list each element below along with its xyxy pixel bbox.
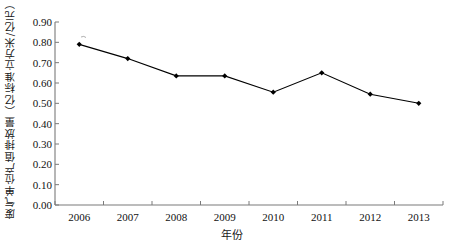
x-axis-title: 年份 [0,226,452,242]
data-point-marker [174,73,179,78]
x-axis-title-text: 年份 [209,226,244,242]
data-point-marker [416,101,421,106]
axis-lines [55,22,443,205]
axis-tick-marks [55,22,443,205]
scan-artifact [81,36,86,37]
data-point-markers [77,42,422,106]
chart-figure: 废气单位产值排放量（亿标准立方米/亿元） 0.000.100.200.300.4… [0,0,452,246]
data-point-marker [368,92,373,97]
data-point-marker [222,73,227,78]
data-point-marker [125,56,130,61]
data-point-marker [271,90,276,95]
plot-area [0,0,452,246]
data-line [79,44,419,103]
data-point-marker [319,70,324,75]
data-point-marker [77,42,82,47]
